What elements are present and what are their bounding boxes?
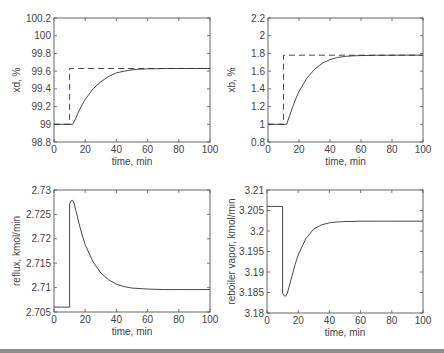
y-tick-label: 99.6 xyxy=(32,66,52,77)
x-axis-label: time, min xyxy=(112,156,153,167)
x-tick-label: 0 xyxy=(265,144,271,155)
y-tick-label: 99.2 xyxy=(32,101,52,112)
bottom-divider xyxy=(0,349,444,353)
x-tick-label: 80 xyxy=(173,144,185,155)
x-tick-label: 40 xyxy=(111,314,123,325)
y-tick-label: 99 xyxy=(40,119,52,130)
y-tick-label: 3.205 xyxy=(239,205,264,216)
y-tick-label: 2.71 xyxy=(32,282,52,293)
y-tick-label: 3.19 xyxy=(245,267,265,278)
x-tick-label: 0 xyxy=(51,144,57,155)
x-tick-label: 60 xyxy=(142,314,154,325)
x-tick-label: 40 xyxy=(111,144,123,155)
y-axis-label: xb, % xyxy=(226,67,237,92)
y-tick-label: 99.4 xyxy=(32,83,52,94)
y-tick-label: 2.705 xyxy=(26,307,51,318)
response-curve xyxy=(54,68,210,124)
y-tick-label: 1.2 xyxy=(251,101,265,112)
y-tick-label: 1.4 xyxy=(251,83,265,94)
x-tick-label: 60 xyxy=(142,144,154,155)
x-tick-label: 40 xyxy=(324,144,336,155)
y-tick-label: 2.725 xyxy=(26,209,51,220)
response-curve xyxy=(268,55,423,124)
y-tick-label: 0.8 xyxy=(251,137,265,148)
y-tick-label: 3.21 xyxy=(245,185,265,196)
y-axis-label: xd, % xyxy=(11,67,22,92)
x-tick-label: 60 xyxy=(355,144,367,155)
x-tick-label: 20 xyxy=(80,144,92,155)
setpoint-line xyxy=(54,68,210,124)
response-curve xyxy=(267,206,423,296)
y-tick-label: 2 xyxy=(259,30,265,41)
plot-frame xyxy=(268,18,423,142)
x-tick-label: 80 xyxy=(386,315,398,326)
x-tick-label: 80 xyxy=(386,144,398,155)
panel-xd: 02040608010098.89999.299.499.699.8100100… xyxy=(11,13,219,168)
x-tick-label: 60 xyxy=(355,315,367,326)
y-tick-label: 2.2 xyxy=(251,13,265,24)
panel-reboiler-vapor: 0204060801003.183.1853.193.1953.23.2053.… xyxy=(226,185,432,339)
y-tick-label: 1.6 xyxy=(251,66,265,77)
setpoint-line xyxy=(268,55,423,124)
plot-frame xyxy=(54,190,210,312)
y-tick-label: 2.72 xyxy=(32,233,52,244)
x-axis-label: time, min xyxy=(325,156,366,167)
response-curve xyxy=(54,200,210,307)
y-tick-label: 3.195 xyxy=(239,246,264,257)
panel-xb: 0204060801000.811.21.41.61.822.2time, mi… xyxy=(226,13,432,168)
y-axis-label: reflux, kmol/min xyxy=(11,216,22,286)
x-axis-label: time, min xyxy=(325,327,366,338)
x-tick-label: 100 xyxy=(415,315,432,326)
x-tick-label: 80 xyxy=(173,314,185,325)
plot-frame xyxy=(54,18,210,142)
x-tick-label: 40 xyxy=(324,315,336,326)
y-tick-label: 1 xyxy=(259,119,265,130)
y-tick-label: 99.8 xyxy=(32,48,52,59)
x-tick-label: 100 xyxy=(202,144,219,155)
y-tick-label: 100 xyxy=(34,30,51,41)
x-axis-label: time, min xyxy=(112,326,153,337)
x-tick-label: 20 xyxy=(80,314,92,325)
y-tick-label: 3.2 xyxy=(250,226,264,237)
panel-reflux: 0204060801002.7052.712.7152.722.7252.73t… xyxy=(11,185,219,338)
x-tick-label: 100 xyxy=(415,144,432,155)
x-tick-label: 0 xyxy=(51,314,57,325)
x-tick-label: 20 xyxy=(293,144,305,155)
y-tick-label: 2.73 xyxy=(32,185,52,196)
y-tick-label: 3.18 xyxy=(245,308,265,319)
plot-frame xyxy=(267,190,423,313)
y-axis-label: reboiler vapor, kmol/min xyxy=(226,198,237,304)
y-tick-label: 3.185 xyxy=(239,287,264,298)
y-tick-label: 100.2 xyxy=(26,13,51,24)
x-tick-label: 20 xyxy=(293,315,305,326)
figure: 02040608010098.89999.299.499.699.8100100… xyxy=(0,0,444,353)
y-tick-label: 98.8 xyxy=(32,137,52,148)
y-tick-label: 2.715 xyxy=(26,258,51,269)
x-tick-label: 0 xyxy=(264,315,270,326)
y-tick-label: 1.8 xyxy=(251,48,265,59)
x-tick-label: 100 xyxy=(202,314,219,325)
